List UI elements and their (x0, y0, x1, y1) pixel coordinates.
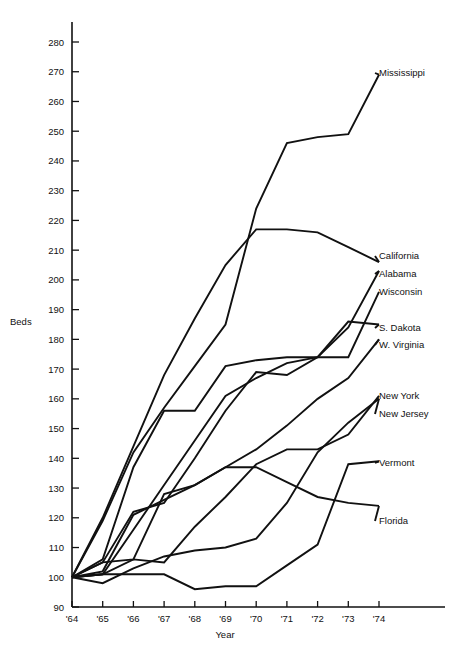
x-tick-label: '71 (281, 613, 293, 624)
y-tick-label: 170 (48, 364, 64, 375)
y-tick-label: 140 (48, 453, 64, 464)
series-label-s-dakota: S. Dakota (379, 322, 421, 333)
x-axis-ticks: '64'65'66'67'68'69'70'71'72'73'74 (66, 601, 385, 624)
series-label-alabama: Alabama (379, 268, 417, 279)
series-line-alabama (72, 271, 379, 577)
x-tick-label: '69 (219, 613, 231, 624)
x-tick-label: '68 (189, 613, 201, 624)
y-tick-label: 90 (53, 602, 64, 613)
y-tick-label: 210 (48, 245, 64, 256)
y-tick-label: 230 (48, 185, 64, 196)
x-tick-label: '66 (127, 613, 139, 624)
series-label-new-jersey: New Jersey (379, 408, 429, 419)
series-label-vermont: Vermont (379, 457, 415, 468)
x-tick-label: '70 (250, 613, 262, 624)
y-tick-label: 110 (49, 542, 64, 553)
x-tick-label: '64 (66, 613, 78, 624)
y-tick-label: 150 (48, 423, 64, 434)
series-label-mississippi: Mississippi (379, 67, 425, 78)
y-tick-label: 200 (48, 274, 64, 285)
series-label-florida: Florida (379, 515, 409, 526)
y-tick-label: 250 (48, 126, 64, 137)
y-tick-label: 160 (48, 393, 64, 404)
x-tick-label: '73 (342, 613, 354, 624)
chart-canvas: 9010011012013014015016017018019020021022… (0, 0, 457, 659)
y-axis-title: Beds (10, 316, 32, 327)
series-label-w-virginia: W. Virginia (379, 339, 425, 350)
x-tick-label: '74 (373, 613, 385, 624)
series-line-new-jersey (72, 399, 379, 583)
y-tick-label: 280 (48, 37, 64, 48)
series-line-wisconsin (72, 292, 379, 577)
y-tick-label: 120 (48, 512, 64, 523)
series-line-w-virginia (72, 339, 379, 577)
series-label-new-york: New York (379, 390, 419, 401)
y-axis-ticks: 9010011012013014015016017018019020021022… (48, 37, 79, 613)
y-tick-label: 270 (48, 66, 64, 77)
series-lines (72, 75, 379, 589)
x-tick-label: '72 (311, 613, 323, 624)
y-tick-label: 260 (48, 96, 64, 107)
series-labels: MississippiCaliforniaAlabamaWisconsinS. … (379, 67, 429, 526)
x-axis-title: Year (215, 629, 234, 640)
y-tick-label: 240 (48, 155, 64, 166)
y-tick-label: 180 (48, 334, 64, 345)
series-line-california (72, 229, 379, 577)
y-tick-label: 100 (48, 572, 64, 583)
y-tick-label: 130 (48, 483, 64, 494)
series-label-wisconsin: Wisconsin (379, 286, 422, 297)
x-tick-label: '67 (158, 613, 170, 624)
y-tick-label: 220 (48, 215, 64, 226)
y-tick-label: 190 (48, 304, 64, 315)
series-label-california: California (379, 250, 420, 261)
x-tick-label: '65 (97, 613, 109, 624)
line-chart: 9010011012013014015016017018019020021022… (0, 0, 457, 659)
